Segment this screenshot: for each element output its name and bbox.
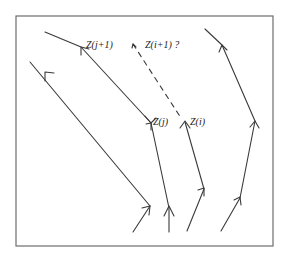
- path-a: [30, 62, 150, 232]
- label-z-i-plus-1-question: Z(i+1) ?: [145, 39, 179, 51]
- arrow-icon: [45, 72, 54, 81]
- label-z-j-plus-1: Z(j+1): [86, 39, 113, 51]
- arrow-icon: [234, 197, 241, 205]
- trajectory-diagram: Z(j+1) Z(i+1) ? Z(j) Z(i): [0, 0, 288, 259]
- hypothetical-dashed-segment: [133, 44, 181, 118]
- diagram-frame: [16, 16, 273, 246]
- path-d: [205, 29, 259, 231]
- label-z-i: Z(i): [190, 116, 206, 128]
- label-z-j: Z(j): [153, 116, 169, 128]
- path-b: [45, 32, 174, 232]
